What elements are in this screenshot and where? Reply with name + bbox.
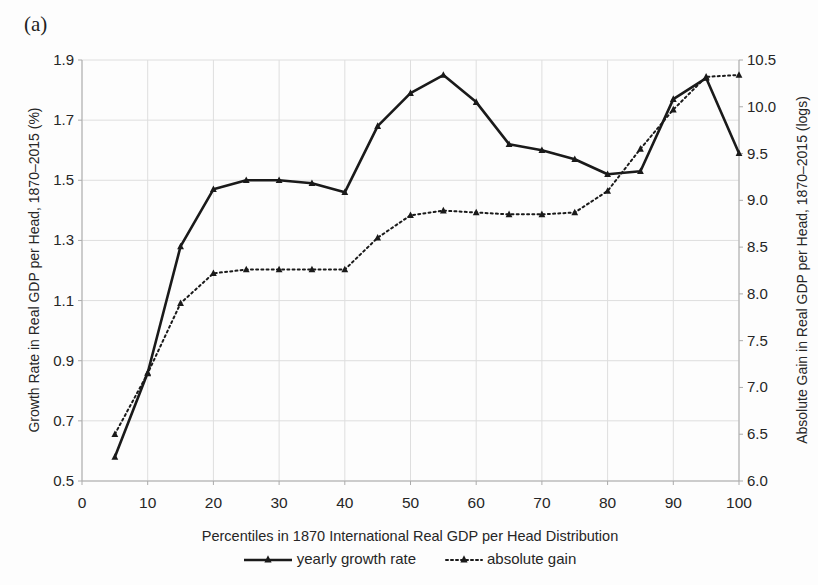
left-axis-tick-label: 0.7 bbox=[53, 412, 74, 429]
solid-line-swatch bbox=[242, 552, 294, 566]
x-axis-tick-label: 100 bbox=[726, 494, 752, 511]
legend-label-yearly-growth-rate: yearly growth rate bbox=[297, 550, 416, 567]
legend: yearly growth rate absolute gain bbox=[0, 550, 818, 567]
absolute-gain-marker bbox=[637, 145, 644, 152]
left-axis-tick-label: 0.9 bbox=[53, 352, 74, 369]
right-axis-tick-label: 7.5 bbox=[747, 332, 768, 349]
x-axis-tick-label: 30 bbox=[270, 494, 288, 511]
x-axis-tick-label: 40 bbox=[336, 494, 354, 511]
absolute-gain-marker bbox=[736, 71, 743, 78]
right-axis-tick-label: 7.0 bbox=[747, 378, 768, 395]
x-axis-tick-label: 60 bbox=[468, 494, 486, 511]
absolute-gain-marker bbox=[341, 266, 348, 273]
yearly-growth-rate-marker bbox=[440, 71, 447, 78]
legend-item-yearly-growth-rate: yearly growth rate bbox=[242, 550, 416, 567]
left-axis-tick-label: 1.9 bbox=[53, 51, 74, 68]
legend-item-absolute-gain: absolute gain bbox=[444, 550, 576, 567]
right-axis-tick-label: 10.0 bbox=[747, 98, 776, 115]
legend-label-absolute-gain: absolute gain bbox=[487, 550, 576, 567]
right-axis-tick-label: 6.5 bbox=[747, 425, 768, 442]
x-axis-tick-label: 10 bbox=[139, 494, 157, 511]
right-axis-tick-label: 9.0 bbox=[747, 191, 768, 208]
right-axis-tick-label: 8.5 bbox=[747, 238, 768, 255]
x-axis-tick-label: 80 bbox=[599, 494, 617, 511]
right-axis-tick-label: 9.5 bbox=[747, 145, 768, 162]
left-axis-tick-label: 1.3 bbox=[53, 231, 74, 248]
x-axis-tick-label: 0 bbox=[78, 494, 87, 511]
absolute-gain-marker bbox=[473, 209, 480, 216]
right-axis-tick-label: 8.0 bbox=[747, 285, 768, 302]
chart-plot-area: 0.50.70.91.11.31.51.71.96.06.57.07.58.08… bbox=[0, 0, 818, 585]
yearly-growth-rate-line bbox=[115, 75, 739, 457]
x-axis-title: Percentiles in 1870 International Real G… bbox=[202, 528, 618, 544]
left-axis-tick-label: 0.5 bbox=[53, 472, 74, 489]
x-axis-tick-label: 20 bbox=[205, 494, 223, 511]
x-axis-tick-label: 50 bbox=[402, 494, 420, 511]
absolute-gain-marker bbox=[243, 266, 250, 273]
x-axis-tick-label: 70 bbox=[533, 494, 551, 511]
figure-panel-a: (a) 0.50.70.91.11.31.51.71.96.06.57.07.5… bbox=[0, 0, 818, 585]
absolute-gain-marker bbox=[111, 430, 118, 437]
dotted-line-swatch bbox=[444, 552, 484, 566]
x-axis-tick-label: 90 bbox=[665, 494, 683, 511]
right-axis-tick-label: 6.0 bbox=[747, 472, 768, 489]
left-axis-tick-label: 1.5 bbox=[53, 171, 74, 188]
left-axis-title: Growth Rate in Real GDP per Head, 1870–2… bbox=[26, 107, 42, 432]
left-axis-tick-label: 1.1 bbox=[53, 292, 74, 309]
absolute-gain-line bbox=[115, 75, 739, 434]
right-axis-title: Absolute Gain in Real GDP per Head, 1870… bbox=[794, 96, 810, 444]
absolute-gain-marker bbox=[571, 209, 578, 216]
left-axis-tick-label: 1.7 bbox=[53, 111, 74, 128]
right-axis-tick-label: 10.5 bbox=[747, 51, 776, 68]
